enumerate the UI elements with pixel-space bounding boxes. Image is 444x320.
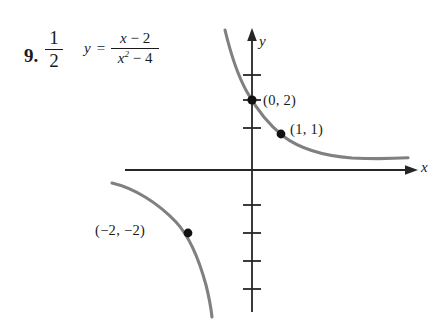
x-axis-label: x — [421, 159, 428, 176]
label-y-intercept: (0, 2) — [263, 92, 296, 109]
y-axis-arrowhead — [247, 28, 257, 41]
x-axis — [125, 165, 418, 175]
label-point-one-one: (1, 1) — [290, 121, 323, 138]
y-axis-label: y — [259, 33, 266, 50]
curve-left-branch — [112, 183, 212, 317]
x-axis-arrowhead — [405, 165, 418, 175]
coordinate-plane — [0, 0, 444, 320]
point-0-2 — [247, 95, 256, 104]
figure-canvas: 9. 1 2 y = x − 2 x2 − 4 — [0, 0, 444, 320]
point-1-1 — [277, 130, 286, 139]
point-minus2-minus2 — [184, 229, 193, 238]
label-hole-point: (−2, −2) — [95, 222, 145, 239]
